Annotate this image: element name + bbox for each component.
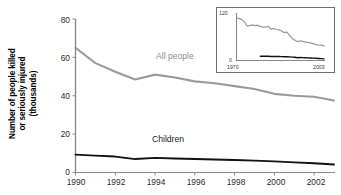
- x-tick-label-1992: 1992: [98, 177, 134, 187]
- y-tick-label-80: 80: [52, 15, 70, 25]
- series-line-children: [76, 155, 335, 165]
- inset-plot-area: [217, 8, 334, 72]
- inset-x-tick-label-1970: 1970: [227, 64, 239, 70]
- inset-x-tick-label-2003: 2003: [313, 64, 325, 70]
- y-tick-label-60: 60: [52, 53, 70, 63]
- y-tick-label-0: 0: [52, 167, 70, 177]
- inset-series-line-all-people: [237, 18, 325, 46]
- x-tick-label-1996: 1996: [178, 177, 214, 187]
- x-tick-label-2002: 2002: [298, 177, 334, 187]
- chart-figure: Number of people killed or seriously inj…: [0, 0, 341, 195]
- inset-y-tick-label-0: 0: [229, 57, 232, 63]
- x-tick-label-2000: 2000: [258, 177, 294, 187]
- series-annotation-all-people: All people: [156, 51, 194, 61]
- x-tick-label-1998: 1998: [218, 177, 254, 187]
- inset-series-line-children: [260, 56, 324, 59]
- y-tick-label-40: 40: [52, 91, 70, 101]
- y-tick-label-20: 20: [52, 129, 70, 139]
- inset-chart: 120 0 1970 2003: [216, 7, 335, 73]
- inset-y-tick-label-120: 120: [219, 10, 228, 16]
- x-tick-label-1994: 1994: [138, 177, 174, 187]
- x-tick-label-1990: 1990: [58, 177, 94, 187]
- series-annotation-children: Children: [152, 134, 184, 144]
